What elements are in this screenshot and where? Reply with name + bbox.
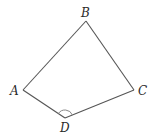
angle-mark-d bbox=[58, 110, 72, 115]
quadrilateral-diagram: A B C D bbox=[0, 0, 153, 138]
edge-cd bbox=[65, 90, 134, 118]
vertex-label-a: A bbox=[9, 84, 19, 98]
vertex-label-d: D bbox=[59, 121, 70, 135]
vertex-label-b: B bbox=[80, 6, 90, 20]
edge-ab bbox=[23, 21, 86, 90]
edges bbox=[23, 21, 134, 118]
edge-bc bbox=[86, 21, 134, 90]
vertex-label-c: C bbox=[138, 84, 147, 98]
